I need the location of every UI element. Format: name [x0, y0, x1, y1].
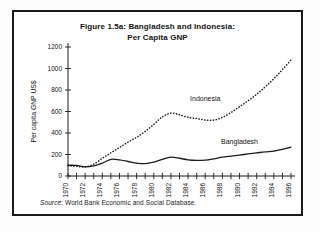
- y-tick-label: 0: [58, 172, 62, 179]
- x-tick-label: 1984: [182, 183, 189, 198]
- series-line-bangladesh: [68, 147, 291, 167]
- x-tick-label: 1978: [131, 183, 138, 198]
- figure-frame: Figure 1.5a: Bangladesh and Indonesia: P…: [12, 10, 303, 216]
- source-note: Source: World Bank Economic and Social D…: [40, 199, 196, 206]
- series-line-indonesia: [68, 60, 291, 167]
- y-tick-label: 200: [51, 151, 62, 158]
- x-tick-label: 1980: [148, 183, 155, 198]
- x-tick-label: 1972: [79, 183, 86, 198]
- x-tick-label: 1988: [216, 183, 223, 198]
- series-label-bangladesh: Bangladesh: [221, 138, 258, 146]
- x-tick-label: 1990: [234, 183, 241, 198]
- x-tick-label: 1970: [62, 183, 69, 198]
- series-label-indonesia: Indonesia: [190, 95, 220, 102]
- chart-plot: 020040060080010001200Per capita GNP US$1…: [14, 12, 305, 218]
- x-tick-label: 1986: [199, 183, 206, 198]
- y-axis-title: Per capita GNP US$: [30, 80, 38, 142]
- x-tick-label: 1996: [285, 183, 292, 198]
- source-value: : World Bank Economic and Social Databas…: [61, 199, 196, 206]
- y-tick-label: 800: [51, 86, 62, 93]
- y-tick-label: 1000: [48, 65, 63, 72]
- x-tick-label: 1992: [251, 183, 258, 198]
- y-tick-label: 1200: [48, 43, 63, 50]
- x-tick-label: 1994: [268, 183, 275, 198]
- y-tick-label: 600: [51, 108, 62, 115]
- x-tick-label: 1982: [165, 183, 172, 198]
- x-tick-label: 1976: [113, 183, 120, 198]
- y-tick-label: 400: [51, 129, 62, 136]
- source-label: Source: [40, 199, 61, 206]
- figure-page: Figure 1.5a: Bangladesh and Indonesia: P…: [0, 0, 320, 232]
- x-tick-label: 1974: [96, 183, 103, 198]
